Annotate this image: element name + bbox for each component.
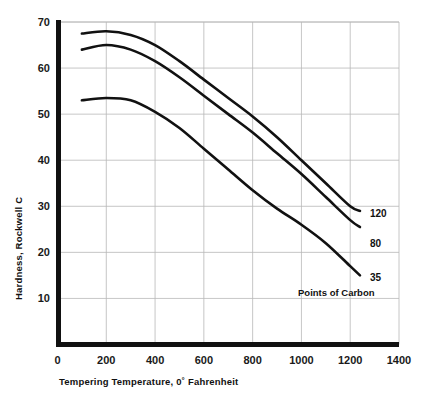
- series-label-120: 120: [370, 208, 387, 219]
- y-tick-label: 10: [38, 292, 50, 304]
- points-of-carbon-caption: Points of Carbon: [298, 287, 375, 298]
- x-tick-label: 200: [97, 354, 115, 366]
- x-tick-label: 1000: [289, 354, 313, 366]
- y-tick-label: 60: [38, 62, 50, 74]
- y-tick-label: 70: [38, 16, 50, 28]
- y-tick-label: 20: [38, 246, 50, 258]
- y-tick-label: 30: [38, 200, 50, 212]
- chart-container: 1208035 10203040506070 02004006008001000…: [0, 0, 427, 409]
- x-tick-label: 0: [54, 354, 60, 366]
- x-tick-label: 1400: [387, 354, 411, 366]
- x-axis-title: Tempering Temperature, 0˚ Fahrenheit: [59, 376, 239, 387]
- chart-background: [0, 0, 427, 409]
- x-tick-label: 800: [243, 354, 261, 366]
- y-tick-label: 50: [38, 108, 50, 120]
- series-label-80: 80: [370, 238, 382, 249]
- y-tick-label: 40: [38, 154, 50, 166]
- x-tick-label: 400: [146, 354, 164, 366]
- x-tick-label: 600: [195, 354, 213, 366]
- y-axis-title: Hardness, Rockwell C: [13, 197, 24, 300]
- x-tick-label: 1200: [338, 354, 362, 366]
- series-label-35: 35: [370, 272, 382, 283]
- hardness-vs-tempering-temperature-chart: 1208035 10203040506070 02004006008001000…: [0, 0, 427, 409]
